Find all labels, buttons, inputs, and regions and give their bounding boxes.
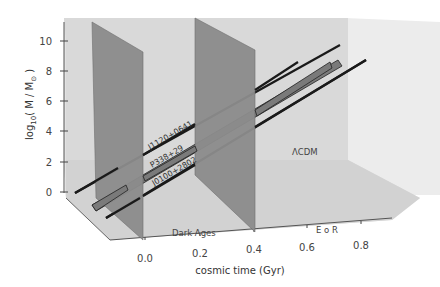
x-tick-0.0: 0.0 [137,253,153,264]
label-dark-ages: Dark Ages [172,228,216,238]
y-tick-2: 2 [46,157,52,168]
x-axis-label: cosmic time (Gyr) [195,265,284,276]
y-tick-4: 4 [46,126,52,137]
label-lcdm: ΛCDM [292,147,318,157]
y-axis-label: log10( M / M⊙ ) [24,69,38,140]
y-tick-8: 8 [46,66,52,77]
x-tick-0.6: 0.6 [299,242,315,253]
x-tick-0.8: 0.8 [353,240,369,251]
chart-3d: 10 8 6 4 2 0 log10( M / M⊙ ) 0.0 0.2 0.4… [0,0,440,287]
x-tick-0.4: 0.4 [246,244,262,255]
label-eor: E o R [316,225,338,235]
y-tick-0: 0 [46,187,52,198]
x-tick-0.2: 0.2 [192,248,208,259]
y-tick-10: 10 [39,36,52,47]
y-tick-6: 6 [46,96,52,107]
